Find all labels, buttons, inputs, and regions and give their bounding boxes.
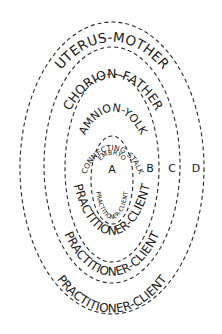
- ring-d-top-label: UTERUS-MOTHER: [51, 29, 173, 72]
- ring-a-letter: A: [108, 163, 116, 176]
- ring-b-bottom-label: PRACTITIONER-CLIENT: [71, 182, 153, 238]
- ring-d-letter: D: [192, 162, 200, 175]
- ring-c-letter: C: [168, 162, 176, 175]
- nested-ellipse-diagram: UTERUS-MOTHER PRACTITIONER-CLIENT D CHOR…: [0, 0, 222, 334]
- ring-b-letter: B: [146, 162, 154, 175]
- ring-b-top-label: AMNION-YOLK: [76, 101, 150, 137]
